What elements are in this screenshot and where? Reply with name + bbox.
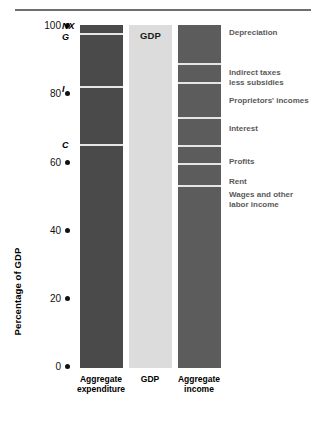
y-tick-label: 20 [50, 293, 61, 304]
income-label-depreciation: Depreciation [229, 28, 321, 38]
segment-divider-rent-wages [178, 185, 221, 187]
income-label-profits: Profits [229, 157, 321, 167]
segment-divider-interest-profits [178, 145, 221, 147]
y-tick-label: 100 [44, 20, 61, 31]
y-tick-dot-icon [65, 364, 70, 369]
y-tick-dot-icon [65, 296, 70, 301]
y-tick-label: 60 [50, 157, 61, 168]
chart-plot-area: 100 80 60 40 20 0 Percentage of GDP NX G… [0, 0, 321, 425]
income-label-indirect-taxes: Indirect taxes less subsidies [229, 68, 321, 88]
segment-divider-i-c [80, 144, 123, 146]
y-tick-0: 0 [18, 361, 70, 373]
expenditure-label-nx: NX [62, 21, 78, 31]
y-tick-label: 40 [50, 225, 61, 236]
bar-aggregate-expenditure [80, 25, 123, 368]
bar-gdp [129, 25, 172, 368]
segment-divider-depreciation-indirecttaxes [178, 63, 221, 65]
gdp-bar-text: GDP [129, 30, 172, 41]
category-label-aggregate-income: Aggregate income [168, 374, 230, 394]
income-label-interest: Interest [229, 124, 321, 134]
income-label-proprietors: Proprietors' incomes [229, 96, 321, 106]
income-label-rent: Rent [229, 177, 321, 187]
bar-aggregate-income [178, 25, 221, 368]
expenditure-label-i: I [62, 84, 78, 94]
expenditure-label-c: C [62, 140, 78, 150]
y-tick-dot-icon [65, 228, 70, 233]
y-tick-20: 20 [18, 293, 70, 305]
y-tick-label: 0 [55, 361, 61, 372]
segment-divider-profits-rent [178, 163, 221, 165]
segment-divider-indirecttaxes-proprietors [178, 82, 221, 84]
segment-divider-proprietors-interest [178, 117, 221, 119]
income-label-wages: Wages and other labor income [229, 190, 321, 210]
y-tick-60: 60 [18, 157, 70, 169]
expenditure-label-g: G [62, 32, 78, 42]
segment-divider-g-i [80, 86, 123, 88]
y-tick-40: 40 [18, 225, 70, 237]
y-axis-title: Percentage of GDP [12, 237, 23, 347]
y-tick-dot-icon [65, 160, 70, 165]
y-tick-label: 80 [50, 88, 61, 99]
segment-divider-nx-g [80, 33, 123, 35]
